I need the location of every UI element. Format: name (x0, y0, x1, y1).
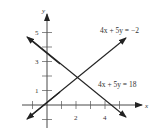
equation-label-1: 4x + 5y = −2 (100, 26, 139, 35)
x-axis-label: x (144, 102, 149, 110)
equation-label-2: 4x + 5y = 18 (98, 80, 137, 89)
x-tick-label-2: 2 (74, 114, 78, 122)
y-tick-label-3: 3 (35, 58, 39, 66)
y-axis-label: y (41, 7, 46, 15)
y-tick-label-1: 1 (35, 87, 39, 95)
y-tick-label-5: 5 (35, 29, 39, 37)
line-rising-tail (27, 92, 60, 119)
line-falling-tail (27, 37, 60, 64)
coordinate-plot: 2 4 1 3 5 x y 4x + 5y = −2 4x + 5y = 18 (0, 0, 163, 135)
x-tick-label-4: 4 (103, 114, 107, 122)
